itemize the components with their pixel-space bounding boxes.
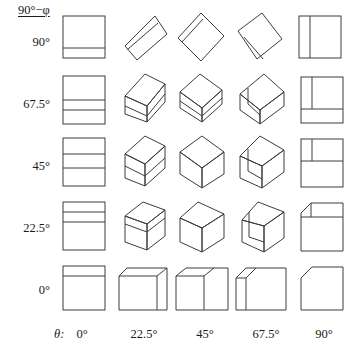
cell-r90-c22 bbox=[117, 10, 173, 66]
cell-r67-c45 bbox=[174, 70, 234, 130]
cell-r45-c90 bbox=[296, 135, 352, 193]
cell-r0-c45 bbox=[172, 262, 234, 318]
projection-matrix-figure: 90°−φ 90° 67.5° 45° 22.5° 0° θ: 0° 22.5°… bbox=[0, 0, 357, 346]
row-label-45: 45° bbox=[2, 160, 50, 173]
cell-r90-c90 bbox=[294, 12, 350, 66]
cell-r45-c67 bbox=[232, 132, 294, 194]
row-label-90: 90° bbox=[2, 36, 50, 49]
cell-r45-c0 bbox=[57, 134, 113, 192]
cell-r67-c67 bbox=[232, 70, 292, 130]
cell-r0-c22 bbox=[113, 262, 175, 318]
cell-r45-c45 bbox=[172, 132, 234, 194]
column-label-0: 0° bbox=[54, 328, 110, 341]
row-label-22-5: 22.5° bbox=[2, 222, 50, 235]
cell-r0-c67 bbox=[232, 262, 294, 318]
cell-r22-c0 bbox=[57, 198, 113, 256]
column-label-22-5: 22.5° bbox=[116, 328, 172, 341]
column-label-90: 90° bbox=[296, 328, 352, 341]
cell-r67-c90 bbox=[296, 73, 352, 129]
row-label-67-5: 67.5° bbox=[2, 98, 50, 111]
cell-r67-c0 bbox=[57, 72, 113, 130]
cell-r90-c45 bbox=[172, 8, 230, 66]
cell-r90-c67 bbox=[232, 9, 288, 65]
cell-r0-c0 bbox=[57, 262, 113, 318]
cell-r22-c45 bbox=[172, 196, 234, 258]
cell-r22-c67 bbox=[232, 196, 294, 258]
cell-r22-c90 bbox=[296, 199, 352, 257]
row-label-0: 0° bbox=[2, 284, 50, 297]
column-label-67-5: 67.5° bbox=[238, 328, 294, 341]
cell-r67-c22 bbox=[115, 70, 175, 130]
cell-r22-c22 bbox=[115, 196, 177, 258]
cell-r45-c22 bbox=[115, 132, 177, 194]
corner-header-label: 90°−φ bbox=[18, 4, 50, 17]
cell-r90-c0 bbox=[57, 12, 113, 66]
cell-r0-c90 bbox=[296, 262, 352, 318]
column-label-45: 45° bbox=[177, 328, 233, 341]
